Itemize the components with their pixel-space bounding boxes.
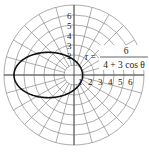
x-tick-label: 2 [88, 77, 93, 87]
grid-spoke [25, 26, 67, 68]
y-tick-label: 2 [67, 51, 72, 61]
y-axis-tick-labels: 23456 [67, 11, 72, 61]
x-tick-label: 4 [108, 77, 113, 87]
equation-label: r = 6 4 + 3 cos θ [85, 45, 149, 70]
y-tick-label: 5 [67, 21, 72, 31]
polar-chart: 123456 23456 r = 6 4 + 3 cos θ [0, 0, 149, 152]
y-tick-label: 6 [67, 11, 72, 21]
x-tick-label: 1 [78, 77, 83, 87]
y-tick-label: 4 [67, 31, 72, 41]
equation-denominator: 4 + 3 cos θ [103, 60, 145, 70]
grid-spoke [81, 82, 123, 124]
grid-spoke [25, 82, 67, 124]
x-tick-label: 5 [118, 77, 123, 87]
x-tick-label: 6 [128, 77, 133, 87]
equation-lhs: r = [85, 52, 96, 62]
x-tick-label: 3 [98, 77, 103, 87]
equation-numerator: 6 [124, 46, 129, 56]
y-tick-label: 3 [67, 41, 72, 51]
